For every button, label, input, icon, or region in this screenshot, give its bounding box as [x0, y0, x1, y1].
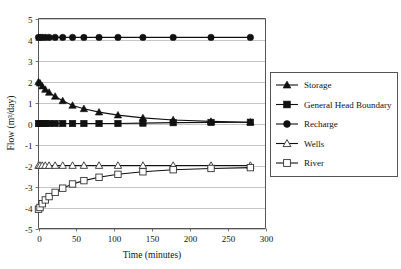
data-point-marker	[170, 119, 176, 125]
data-point-marker	[96, 34, 102, 40]
y-tick-label: 4	[28, 36, 33, 46]
data-point-marker	[247, 164, 253, 170]
data-point-marker	[170, 167, 176, 173]
y-tick-label: -3	[25, 183, 33, 193]
data-point-marker	[208, 119, 214, 125]
data-point-marker	[69, 181, 75, 187]
x-tick-label: 0	[37, 234, 42, 244]
legend-label: Wells	[304, 139, 325, 149]
data-point-marker	[69, 34, 75, 40]
legend-label: Storage	[304, 80, 332, 90]
data-point-marker	[115, 171, 121, 177]
y-tick-label: 5	[28, 15, 33, 25]
data-point-marker	[60, 34, 66, 40]
y-tick-label: 2	[28, 78, 33, 88]
legend: StorageGeneral Head BoundaryRechargeWell…	[271, 73, 398, 177]
data-point-marker	[46, 120, 52, 126]
data-point-marker	[52, 120, 58, 126]
data-point-marker	[96, 174, 102, 180]
data-point-marker	[81, 177, 87, 183]
data-point-marker	[140, 120, 146, 126]
x-tick-label: 200	[184, 234, 198, 244]
data-point-marker	[247, 119, 253, 125]
data-point-marker	[60, 120, 66, 126]
data-point-marker	[208, 34, 214, 40]
y-tick-label: -1	[25, 141, 33, 151]
data-point-marker	[208, 165, 214, 171]
x-tick-label: 100	[108, 234, 122, 244]
data-point-marker	[247, 34, 253, 40]
data-point-marker	[115, 34, 121, 40]
data-point-marker	[52, 189, 58, 195]
x-tick-label: 50	[72, 234, 82, 244]
data-point-marker	[52, 34, 58, 40]
y-tick-label: -5	[25, 225, 33, 235]
data-point-marker	[284, 101, 291, 108]
data-point-marker	[46, 34, 52, 40]
x-tick-label: 300	[260, 234, 274, 244]
y-tick-label: 1	[28, 99, 33, 109]
x-tick-label: 150	[146, 234, 160, 244]
chart-figure: -5-4-3-2-1012345 050100150200250300 Time…	[0, 0, 401, 269]
legend-label: General Head Boundary	[304, 100, 392, 110]
y-tick-label: -4	[25, 204, 33, 214]
data-point-marker	[140, 169, 146, 175]
data-point-marker	[69, 120, 75, 126]
data-point-marker	[60, 185, 66, 191]
data-point-marker	[81, 34, 87, 40]
data-point-marker	[284, 121, 291, 128]
x-axis-title: Time (minutes)	[123, 250, 182, 261]
legend-label: River	[304, 158, 324, 168]
flow-vs-time-line-chart: -5-4-3-2-1012345 050100150200250300 Time…	[0, 0, 401, 269]
legend-label: Recharge	[304, 119, 338, 129]
data-point-marker	[46, 193, 52, 199]
y-tick-label: -2	[25, 162, 33, 172]
y-tick-label: 0	[28, 120, 33, 130]
data-point-marker	[170, 34, 176, 40]
data-point-marker	[115, 120, 121, 126]
data-point-marker	[284, 160, 291, 167]
data-point-marker	[96, 120, 102, 126]
data-point-marker	[81, 120, 87, 126]
data-point-marker	[140, 34, 146, 40]
y-tick-label: 3	[28, 57, 33, 67]
y-axis-title: Flow (m³/day)	[6, 96, 17, 151]
x-tick-label: 250	[222, 234, 236, 244]
